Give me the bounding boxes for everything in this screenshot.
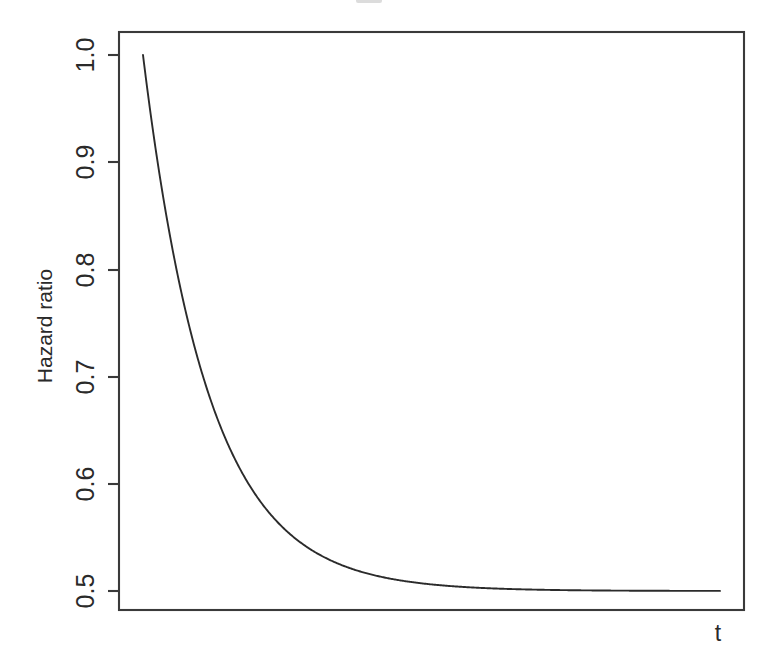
plot-box-border	[119, 32, 744, 610]
y-axis-title: Hazard ratio	[33, 269, 56, 383]
y-tick-label-3: 0.8	[71, 253, 99, 288]
y-tick-label-2: 0.7	[71, 360, 99, 395]
hazard-ratio-curve	[143, 55, 720, 591]
y-tick-label-0: 0.5	[71, 574, 99, 609]
y-tick-label-1: 0.6	[71, 467, 99, 502]
y-tick-label-4: 0.9	[71, 145, 99, 180]
y-axis-ticks	[108, 55, 119, 591]
y-tick-label-5: 1.0	[71, 38, 99, 73]
plot-canvas: 0.5 0.6 0.7 0.8 0.9 1.0 Hazard ratio t	[0, 0, 772, 657]
x-axis-title: t	[715, 620, 722, 646]
hazard-ratio-figure: 0.5 0.6 0.7 0.8 0.9 1.0 Hazard ratio t	[0, 0, 772, 657]
y-axis-tick-labels: 0.5 0.6 0.7 0.8 0.9 1.0	[71, 38, 99, 609]
